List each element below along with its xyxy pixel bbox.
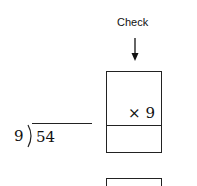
second-answer-box [106,178,162,186]
down-arrow-icon [130,38,140,62]
divisor: 9 [14,127,24,145]
dividend: 54 [36,128,55,146]
division-bar [32,123,92,124]
long-division: 9 54 [12,123,82,147]
check-multiplication-box: × 9 [106,71,162,153]
box-divider-line [107,125,161,126]
check-label: Check [117,16,148,28]
multiplier-text: × 9 [128,104,155,122]
division-bracket-icon [25,124,35,148]
